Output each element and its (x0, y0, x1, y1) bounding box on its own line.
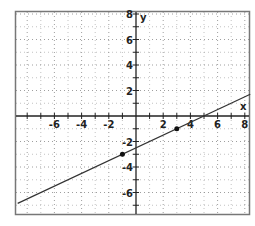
x-tick-label: -4 (76, 119, 87, 130)
x-tick-label: 2 (160, 119, 167, 130)
data-point (120, 152, 125, 157)
y-tick-label: 6 (126, 35, 133, 46)
y-tick-label: -4 (122, 162, 133, 173)
x-tick-label: -2 (103, 119, 114, 130)
y-tick-label: -6 (122, 188, 133, 199)
x-axis-label: x (240, 101, 247, 112)
x-tick-label: 8 (241, 119, 248, 130)
y-tick-label: 2 (126, 86, 133, 97)
y-tick-label: 4 (126, 60, 133, 71)
y-tick-label: -2 (122, 137, 133, 148)
data-point (174, 126, 179, 131)
y-axis-label: y (140, 12, 147, 23)
x-tick-label: -6 (49, 119, 60, 130)
x-tick-label: 6 (214, 119, 221, 130)
y-tick-label: 8 (126, 9, 133, 20)
coordinate-plane: -6-4-224688642-2-4-6 x y (0, 0, 255, 226)
